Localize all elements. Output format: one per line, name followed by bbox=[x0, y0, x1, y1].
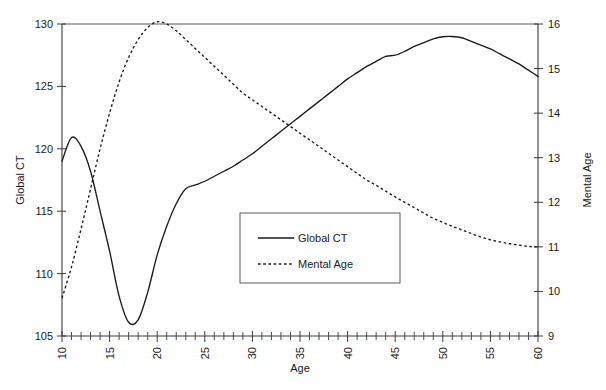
x-tick-label: 50 bbox=[437, 347, 449, 359]
y-right-tick-label: 11 bbox=[548, 241, 559, 253]
y-right-tick-label: 10 bbox=[548, 285, 560, 297]
x-tick-label: 25 bbox=[199, 347, 211, 359]
x-tick-label: 30 bbox=[246, 347, 258, 359]
y-left-tick-label: 120 bbox=[35, 143, 53, 155]
legend-box bbox=[240, 213, 400, 283]
x-tick-label: 60 bbox=[532, 347, 544, 359]
y-right-tick-label: 15 bbox=[548, 63, 560, 75]
y-axis-left-ticks: 105110115120125130 bbox=[35, 18, 66, 342]
y-right-tick-label: 9 bbox=[548, 330, 554, 342]
x-axis-title: Age bbox=[290, 362, 310, 374]
y-axis-left-title: Global CT bbox=[14, 155, 26, 205]
y-left-tick-label: 105 bbox=[35, 330, 53, 342]
y-right-tick-label: 16 bbox=[548, 18, 560, 30]
x-tick-label: 45 bbox=[389, 347, 401, 359]
x-tick-label: 55 bbox=[484, 347, 496, 359]
y-left-tick-label: 115 bbox=[35, 205, 53, 217]
dual-axis-line-chart: 105110115120125130 910111213141516 10152… bbox=[0, 0, 606, 390]
y-left-tick-label: 110 bbox=[35, 268, 53, 280]
plot-frame bbox=[62, 24, 538, 336]
x-tick-label: 40 bbox=[342, 347, 354, 359]
y-right-tick-label: 13 bbox=[548, 152, 560, 164]
x-axis-ticks: 1015202530354045505560 bbox=[56, 331, 544, 359]
x-tick-label: 15 bbox=[104, 347, 116, 359]
x-tick-label: 35 bbox=[294, 347, 306, 359]
legend-label-global-ct: Global CT bbox=[298, 232, 348, 244]
y-left-tick-label: 125 bbox=[35, 80, 53, 92]
y-right-tick-label: 14 bbox=[548, 107, 560, 119]
x-tick-label: 10 bbox=[56, 347, 68, 359]
y-left-tick-label: 130 bbox=[35, 18, 53, 30]
x-tick-label: 20 bbox=[151, 347, 163, 359]
legend-label-mental-age: Mental Age bbox=[298, 258, 353, 270]
chart-legend: Global CT Mental Age bbox=[240, 213, 400, 283]
y-right-tick-label: 12 bbox=[548, 196, 560, 208]
chart-screenshot: 105110115120125130 910111213141516 10152… bbox=[0, 0, 606, 390]
y-axis-right-title: Mental Age bbox=[581, 152, 593, 207]
